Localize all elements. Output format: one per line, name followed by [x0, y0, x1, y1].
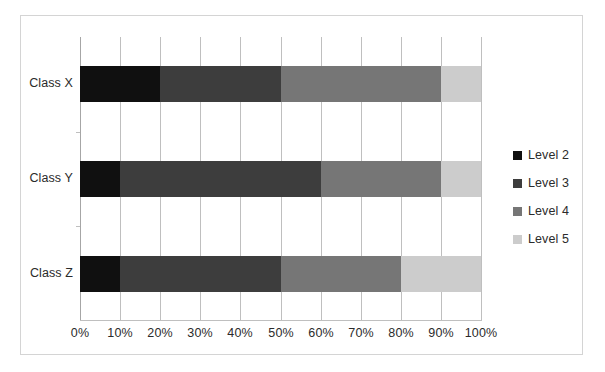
legend-item[interactable]: Level 3	[513, 169, 569, 197]
legend-label: Level 5	[528, 232, 569, 246]
legend-item[interactable]: Level 2	[513, 141, 569, 169]
legend-swatch-icon	[513, 179, 522, 188]
bar-row	[80, 66, 481, 102]
y-axis-tick	[76, 226, 80, 227]
chart-frame: Class XClass YClass Z 0%10%20%30%40%50%6…	[20, 15, 583, 355]
plot-area	[80, 37, 481, 321]
category-label: Class Y	[21, 171, 73, 185]
bar-segment[interactable]	[120, 161, 321, 197]
bar-segment[interactable]	[281, 66, 441, 102]
bar-segment[interactable]	[401, 256, 481, 292]
y-axis-tick	[76, 132, 80, 133]
legend-item[interactable]: Level 5	[513, 225, 569, 253]
legend-swatch-icon	[513, 151, 522, 160]
legend-label: Level 4	[528, 204, 569, 218]
legend-label: Level 3	[528, 176, 569, 190]
bar-row	[80, 256, 481, 292]
legend-item[interactable]: Level 4	[513, 197, 569, 225]
bar-segment[interactable]	[281, 256, 401, 292]
bar-row	[80, 161, 481, 197]
chart-legend: Level 2Level 3Level 4Level 5	[513, 141, 569, 253]
bar-segment[interactable]	[80, 256, 120, 292]
bar-segment[interactable]	[321, 161, 441, 197]
x-tick-label: 100%	[457, 326, 505, 340]
bar-segment[interactable]	[441, 66, 481, 102]
category-label: Class X	[21, 76, 73, 90]
bar-segment[interactable]	[160, 66, 281, 102]
legend-swatch-icon	[513, 235, 522, 244]
category-label: Class Z	[21, 266, 73, 280]
legend-label: Level 2	[528, 148, 569, 162]
bar-segment[interactable]	[80, 66, 160, 102]
bar-segment[interactable]	[441, 161, 481, 197]
legend-swatch-icon	[513, 207, 522, 216]
bar-segment[interactable]	[80, 161, 120, 197]
gridline-100	[481, 37, 482, 321]
bar-segment[interactable]	[120, 256, 281, 292]
x-axis-line	[80, 320, 481, 321]
